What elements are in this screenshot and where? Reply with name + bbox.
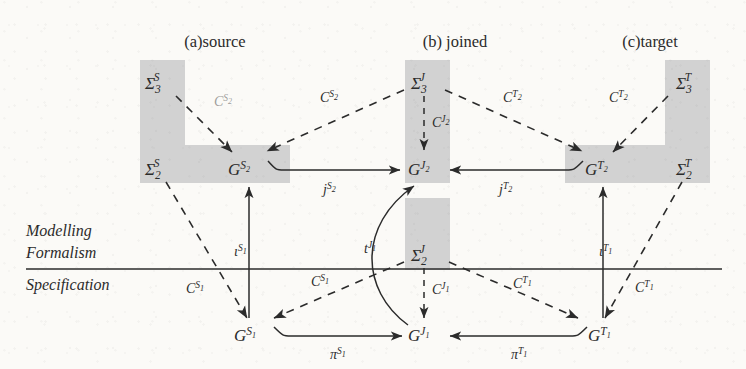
edge-label-iota-T1: ιT1 (599, 243, 612, 259)
edge-label-pi-S1: πS1 (330, 346, 346, 362)
edge-sigma3J-to-GT2 (445, 90, 582, 151)
group-header-source: (a)source (184, 32, 245, 51)
node-sigma-3-T: Σ3T (675, 71, 693, 95)
edge-label-C-S1-mid: CS1 (311, 273, 329, 289)
node-sigma-2-T: Σ2T (675, 157, 693, 181)
node-G-T1: GT1 (588, 325, 611, 345)
edge-label-C-T2-right: CT2 (609, 89, 628, 105)
edge-label-pi-T1: πT1 (511, 346, 527, 362)
edge-label-C-J1: CJ1 (432, 281, 450, 297)
edge-sigma3T-to-GT2 (613, 96, 668, 152)
edge-label-C-T1-right: CT1 (635, 279, 654, 295)
edge-GS1-to-GJ1 (274, 327, 402, 336)
edge-label-j-S2: jS2 (321, 181, 336, 197)
edge-sigma2J-to-GS1 (274, 262, 404, 318)
edge-label-iota-S1: ιS1 (234, 243, 247, 259)
layer-label-formalism: Formalism (25, 244, 96, 261)
node-sigma-2-S: Σ2S (144, 157, 161, 181)
group-header-joined: (b) joined (423, 32, 488, 51)
node-sigma-3-S: Σ3S (144, 71, 161, 95)
edge-GT1-to-GJ1 (450, 327, 587, 336)
node-G-S1: GS1 (234, 325, 256, 345)
edge-GT2-to-GJ2 (450, 161, 583, 170)
edge-sigma2T-to-GT1 (605, 182, 682, 318)
layer-label-specification: Specification (26, 276, 110, 294)
group-header-target: (c)target (622, 32, 678, 51)
edge-label-C-S2-right: CS2 (320, 89, 338, 105)
shaded-region-source (140, 60, 290, 183)
layer-label-modelling: Modelling (25, 222, 92, 240)
node-G-J1: GJ1 (408, 325, 429, 345)
edge-label-C-S1-left: CS1 (186, 280, 204, 296)
commutative-diagram: (a)source (b) joined (c)target Modelling… (0, 0, 746, 369)
figure-page: (a)source (b) joined (c)target Modelling… (0, 0, 746, 369)
edge-label-j-T2: jT2 (497, 181, 512, 197)
node-sigma-3-J: Σ3J (410, 71, 427, 95)
edge-label-C-S2-left: CS2 (214, 93, 232, 109)
edge-label-C-T1-mid: CT1 (513, 275, 532, 291)
edge-label-C-T2-left: CT2 (503, 89, 522, 105)
node-sigma-2-J: Σ2J (410, 243, 427, 267)
